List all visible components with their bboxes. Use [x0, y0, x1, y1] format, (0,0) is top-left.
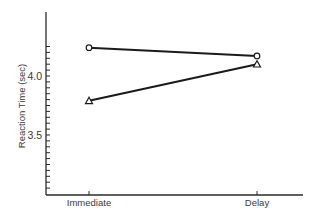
line-chart: 4.03.5 Reaction Time (sec) ImmediateDela…	[0, 0, 315, 216]
series-triangle	[86, 61, 261, 104]
x-tick-label-immediate: Immediate	[67, 197, 111, 208]
circle-marker-icon	[86, 45, 92, 51]
y-tick-label: 4.0	[27, 70, 42, 82]
y-axis-title: Reaction Time (sec)	[16, 64, 27, 148]
x-axis: ImmediateDelay	[46, 191, 303, 208]
plot-series	[86, 45, 261, 104]
series-circle	[86, 45, 260, 59]
x-tick-labels: ImmediateDelay	[67, 197, 270, 208]
y-axis: 4.03.5 Reaction Time (sec)	[16, 12, 50, 195]
y-tick-label: 3.5	[27, 129, 42, 141]
x-tick-label-delay: Delay	[245, 197, 270, 208]
y-tick-labels: 4.03.5	[27, 70, 42, 141]
circle-marker-icon	[254, 53, 260, 59]
series-line-circle	[89, 48, 257, 56]
series-line-triangle	[89, 64, 257, 101]
